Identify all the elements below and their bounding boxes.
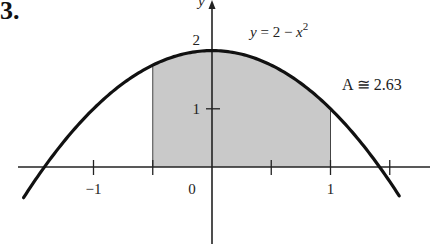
function-label-eq: = 2 − — [257, 24, 296, 40]
y-tick-label: 1 — [193, 101, 201, 117]
function-label-exponent: 2 — [303, 20, 309, 32]
y-axis-label: y — [196, 0, 205, 9]
x-tick-label: 0 — [188, 181, 196, 197]
function-label-lhs: y — [248, 24, 257, 40]
y-tick-label: 2 — [193, 32, 201, 48]
x-tick-label: 1 — [327, 181, 335, 197]
shaded-area — [153, 51, 331, 167]
function-plot: −101 12 y y = 2 − x2 A ≅ 2.63 — [0, 0, 430, 248]
y-axis-arrow-icon — [209, 0, 216, 9]
x-tick-label: −1 — [86, 181, 102, 197]
x-tick-labels: −101 — [86, 181, 335, 197]
function-label: y = 2 − x2 — [248, 20, 308, 40]
area-label: A ≅ 2.63 — [342, 76, 402, 93]
